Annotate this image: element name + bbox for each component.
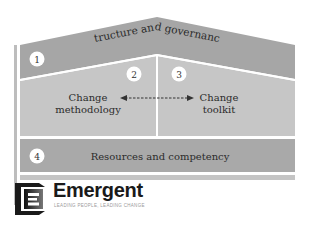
badge-4: 4 bbox=[30, 149, 45, 164]
svg-text:2: 2 bbox=[131, 70, 137, 80]
frame-left bbox=[14, 45, 17, 205]
svg-text:3: 3 bbox=[176, 70, 182, 80]
svg-text:1: 1 bbox=[34, 55, 40, 65]
badge-3: 3 bbox=[172, 67, 187, 82]
section-2-label-line2: methodology bbox=[55, 104, 121, 115]
emergent-logo: Emergent LEADING PEOPLE, LEADING CHANGE bbox=[15, 183, 175, 219]
logo-tagline: LEADING PEOPLE, LEADING CHANGE bbox=[54, 203, 145, 208]
section-3-label-line2: toolkit bbox=[203, 104, 236, 115]
badge-2: 2 bbox=[127, 67, 142, 82]
emergent-e-mark-icon bbox=[15, 183, 49, 215]
section-1-label: Structure and governance bbox=[0, 0, 221, 44]
logo-wordmark: Emergent bbox=[53, 179, 143, 202]
section-2-label-line1: Change bbox=[69, 92, 108, 103]
badge-1: 1 bbox=[30, 52, 45, 67]
svg-text:4: 4 bbox=[34, 152, 40, 162]
section-3-label-line1: Change bbox=[200, 92, 239, 103]
section-4-label: Resources and competency bbox=[91, 151, 230, 162]
